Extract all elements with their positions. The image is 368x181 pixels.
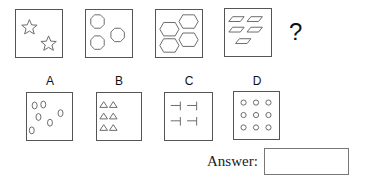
sequence-panel-4-parallelograms: [224, 8, 272, 57]
option-c-tbars[interactable]: [164, 92, 213, 141]
hexagon-icon: [156, 10, 202, 57]
octagon-icon: [86, 10, 132, 57]
option-a-ellipses[interactable]: [26, 92, 73, 141]
option-d-label: D: [247, 74, 267, 88]
option-b-triangles[interactable]: [96, 92, 142, 141]
option-d-circles[interactable]: [233, 91, 280, 140]
answer-input[interactable]: [264, 148, 349, 175]
option-a-label: A: [40, 74, 60, 88]
star-icon: [16, 10, 62, 57]
answer-label: Answer:: [207, 153, 258, 170]
ellipse-icon: [27, 93, 72, 140]
sequence-panel-2-octagons: [85, 9, 133, 58]
t-bar-icon: [165, 93, 212, 140]
option-c-label: C: [179, 74, 199, 88]
question-mark: ?: [289, 18, 302, 46]
triangle-icon: [97, 93, 141, 140]
sequence-panel-3-hexagons: [155, 9, 203, 58]
option-b-label: B: [109, 74, 129, 88]
sequence-panel-1-stars: [15, 9, 63, 58]
circle-icon: [234, 92, 279, 139]
parallelogram-icon: [225, 9, 271, 56]
